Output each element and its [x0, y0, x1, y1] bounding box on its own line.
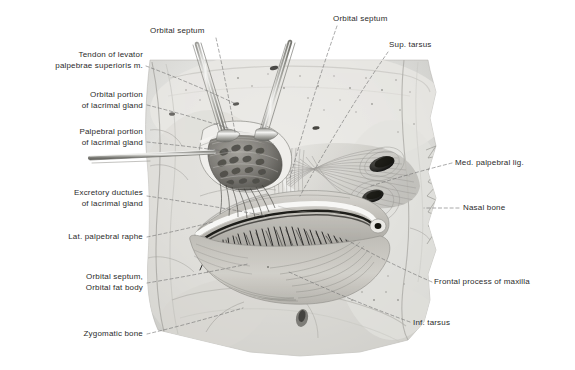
label-lat-palpebral-raphe: Lat. palpebral raphe	[23, 232, 143, 243]
label-sup-tarsus: Sup. tarsus	[389, 40, 453, 51]
label-frontal-process-maxilla: Frontal process of maxilla	[434, 277, 574, 288]
label-palpebral-portion-lacrimal: Palpebral portion of lacrimal gland	[23, 127, 143, 148]
label-tendon-levator: Tendon of levator palpebrae superioris m…	[18, 50, 143, 71]
label-inf-tarsus: Inf. tarsus	[413, 318, 475, 329]
label-med-palpebral-lig: Med. palpebral lig.	[455, 158, 560, 169]
label-orbital-septum-right: Orbital septum	[333, 14, 413, 25]
label-orbital-septum-fat-body: Orbital septum, Orbital fat body	[23, 272, 143, 293]
label-zygomatic-bone: Zygomatic bone	[23, 329, 143, 340]
label-excretory-ductules: Excretory ductules of lacrimal gland	[23, 188, 143, 209]
label-nasal-bone: Nasal bone	[463, 203, 533, 214]
anatomical-plate: Tendon of levator palpebrae superioris m…	[0, 0, 575, 370]
label-orbital-septum-left: Orbital septum	[150, 26, 230, 37]
label-orbital-portion-lacrimal: Orbital portion of lacrimal gland	[23, 90, 143, 111]
